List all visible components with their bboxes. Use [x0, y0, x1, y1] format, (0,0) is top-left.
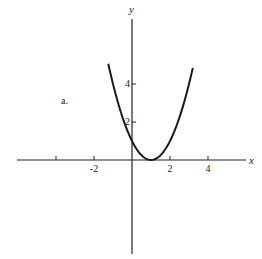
y-tick-label: 4: [125, 78, 130, 89]
chart-plot: -22424 x y a.: [0, 0, 262, 259]
x-axis-label: x: [248, 154, 254, 166]
x-tick-label: -2: [90, 163, 98, 174]
parabola-curve: [108, 64, 193, 160]
axes: [17, 19, 246, 254]
panel-label: a.: [61, 95, 68, 106]
y-axis-label: y: [128, 3, 134, 15]
x-tick-label: 2: [168, 163, 173, 174]
x-tick-label: 4: [206, 163, 211, 174]
